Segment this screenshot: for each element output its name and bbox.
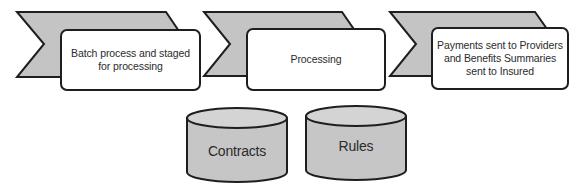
contracts-label: Contracts xyxy=(187,136,287,166)
step-1-label: Batch process and staged for processing xyxy=(66,32,195,88)
step-3-label: Payments sent to Providers and Benefits … xyxy=(436,30,564,87)
step-2-label: Processing xyxy=(252,31,380,88)
rules-label: Rules xyxy=(306,131,406,161)
